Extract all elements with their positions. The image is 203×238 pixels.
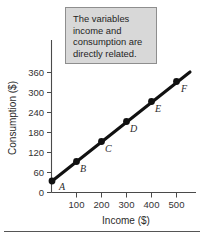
figure-container: 360 300 240 180 120 60 0 100 200 300 400… bbox=[0, 0, 203, 238]
data-point-marker bbox=[73, 158, 80, 165]
data-point-marker bbox=[49, 178, 56, 185]
data-point-marker bbox=[148, 98, 155, 105]
y-axis-tick-labels: 360 300 240 180 120 60 0 bbox=[28, 67, 44, 198]
y-tick-label: 360 bbox=[28, 67, 44, 78]
x-axis-tick-labels: 100 200 300 400 500 bbox=[69, 199, 185, 210]
y-tick-label: 60 bbox=[33, 167, 44, 178]
x-tick-label: 100 bbox=[69, 199, 85, 210]
x-axis-ticks bbox=[77, 193, 177, 198]
data-point-marker bbox=[173, 78, 180, 85]
data-series-line bbox=[52, 72, 191, 182]
data-point-marker bbox=[98, 138, 105, 145]
y-axis-ticks bbox=[47, 73, 52, 193]
y-tick-label: 180 bbox=[28, 127, 44, 138]
data-point-label-d: D bbox=[129, 123, 138, 134]
y-axis-title: Consumption ($) bbox=[7, 81, 18, 155]
x-tick-label: 500 bbox=[169, 199, 185, 210]
y-tick-label: 120 bbox=[28, 147, 44, 158]
data-point-marker bbox=[123, 118, 130, 125]
data-point-label-f: F bbox=[180, 83, 188, 94]
annotation-callout-text: The variables income and consumption are… bbox=[73, 13, 153, 59]
data-point-label-b: B bbox=[80, 163, 86, 174]
annotation-callout-box: The variables income and consumption are… bbox=[65, 7, 157, 64]
x-axis-title: Income ($) bbox=[102, 215, 150, 226]
y-tick-label: 300 bbox=[28, 87, 44, 98]
y-tick-label: 240 bbox=[28, 107, 44, 118]
x-tick-label: 400 bbox=[144, 199, 160, 210]
bottom-divider bbox=[4, 231, 200, 232]
data-point-label-a: A bbox=[58, 181, 66, 192]
y-tick-label: 0 bbox=[39, 187, 44, 198]
x-tick-label: 200 bbox=[94, 199, 110, 210]
data-point-label-e: E bbox=[154, 103, 161, 114]
data-point-labels: A B C D E F bbox=[58, 83, 188, 192]
data-point-label-c: C bbox=[105, 143, 112, 154]
x-tick-label: 300 bbox=[119, 199, 135, 210]
